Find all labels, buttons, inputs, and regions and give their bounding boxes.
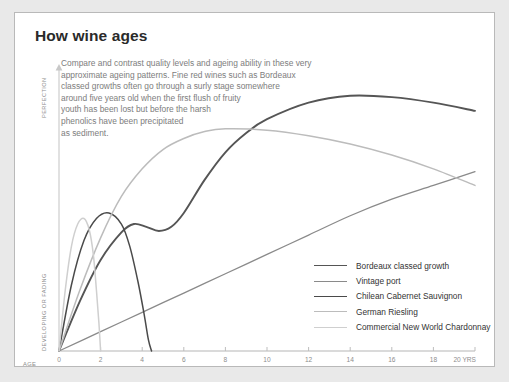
legend-label: Bordeaux classed growth [356, 261, 449, 271]
x-axis-tick-label: 18 [430, 356, 438, 363]
x-axis-tick-label: 12 [305, 356, 313, 363]
legend-item: Chilean Cabernet Sauvignon [314, 289, 491, 304]
legend-item: Vintage port [314, 273, 491, 288]
legend-label: Vintage port [356, 276, 401, 286]
y-axis-arrow [56, 64, 63, 71]
legend-swatch [314, 281, 347, 282]
legend-item: Bordeaux classed growth [314, 258, 491, 273]
legend-swatch [314, 327, 347, 328]
x-axis-tick-label: 8 [224, 356, 228, 363]
x-axis-tick-label: 0 [57, 356, 61, 363]
x-axis-tick-label: 14 [347, 356, 355, 363]
legend-label: Commercial New World Chardonnay [356, 322, 491, 332]
x-axis-tick-label: 16 [388, 356, 396, 363]
x-axis-tick-label: 6 [182, 356, 186, 363]
legend-label: German Riesling [356, 307, 418, 317]
chart-legend: Bordeaux classed growthVintage portChile… [314, 258, 491, 335]
legend-swatch [314, 296, 347, 297]
chart-card: How wine ages Compare and contrast quali… [14, 12, 495, 367]
series-line [59, 213, 152, 351]
legend-label: Chilean Cabernet Sauvignon [356, 291, 462, 301]
x-axis-tick-label: 20 YRS [453, 356, 476, 363]
legend-item: Commercial New World Chardonnay [314, 320, 491, 335]
x-axis-tick-label: 4 [140, 356, 144, 363]
legend-item: German Riesling [314, 304, 491, 319]
x-axis-tick-label: 10 [263, 356, 271, 363]
legend-swatch [314, 311, 347, 312]
legend-swatch [314, 265, 347, 266]
x-axis-tick-label: 2 [99, 356, 103, 363]
